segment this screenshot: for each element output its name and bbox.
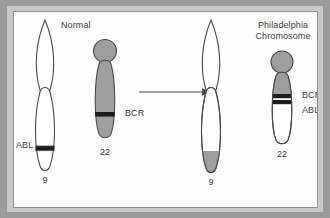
chromosome-normal-9	[28, 18, 62, 178]
normal-22-long-arm	[95, 60, 115, 138]
normal-22-bcr-band	[95, 112, 115, 117]
normal-9-long-arm	[36, 88, 55, 171]
philadelphia-panel-title-line2: Chromosome	[240, 31, 318, 42]
philadelphia-panel-title-line1: Philadelphia	[240, 20, 318, 31]
bcr-label-normal-22: BCR	[125, 108, 144, 119]
der-9-short-arm	[202, 20, 219, 95]
chromosome-number-normal-22: 22	[92, 147, 118, 158]
normal-22-short-arm	[94, 40, 117, 63]
chromosome-number-ph-22: 22	[269, 149, 295, 160]
normal-9-short-arm	[36, 20, 53, 95]
normal-panel-title: Normal	[61, 20, 91, 31]
bcr-label-ph-22: BCR	[302, 90, 318, 101]
chromosome-ph-22	[265, 50, 299, 150]
chromosome-number-normal-9: 9	[32, 175, 58, 186]
normal-9-abl-band	[36, 146, 55, 151]
der-9-translocated-grey-tip	[197, 151, 225, 177]
ph-22-short-arm	[271, 51, 293, 73]
chromosome-der-9	[194, 18, 228, 180]
figure-canvas: Normal ABL 9	[13, 11, 318, 208]
abl-label-normal-9: ABL	[16, 140, 33, 151]
figure-frame: Normal ABL 9	[0, 0, 330, 218]
abl-label-ph-22: ABL	[302, 105, 318, 116]
chromosome-number-der-9: 9	[198, 177, 224, 188]
chromosome-normal-22	[88, 38, 122, 148]
